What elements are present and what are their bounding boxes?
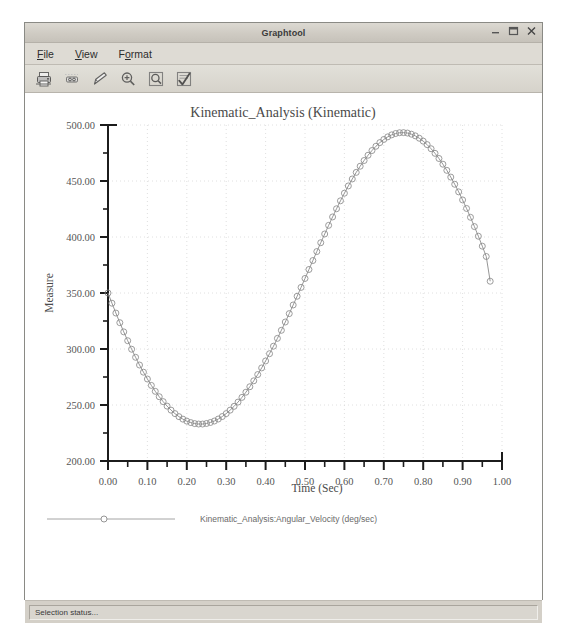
menu-item-view-rest: iew (82, 48, 98, 60)
maximize-button[interactable] (508, 25, 519, 37)
x-axis-title: Time (Sec) (291, 482, 342, 495)
y-axis-title: Measure (43, 273, 55, 313)
y-tick-label: 450.00 (66, 176, 95, 187)
chart-canvas[interactable]: Kinematic_Analysis (Kinematic) 200.00250… (25, 93, 542, 601)
menu-item-format[interactable]: Format (117, 47, 154, 61)
toolbar (25, 65, 542, 93)
close-button[interactable] (526, 25, 537, 37)
menu-item-file-rest: ile (43, 48, 54, 60)
zoom-in-icon[interactable] (118, 69, 138, 89)
edit-pencil-icon[interactable] (90, 69, 110, 89)
y-tick-label: 300.00 (66, 344, 95, 355)
x-tick-label: 0.30 (217, 476, 235, 487)
x-tick-label: 0.80 (414, 476, 432, 487)
x-tick-label: 0.10 (138, 476, 156, 487)
x-tick-label: 0.70 (375, 476, 393, 487)
legend-series-label: Kinematic_Analysis:Angular_Velocity (deg… (200, 514, 377, 524)
x-tick-label: 1.00 (493, 476, 511, 487)
graphtool-window: Graphtool (24, 22, 543, 600)
kinematic-analysis-chart: Kinematic_Analysis (Kinematic) 200.00250… (25, 93, 542, 600)
x-tick-label: 0.40 (256, 476, 274, 487)
y-tick-label: 350.00 (66, 288, 95, 299)
y-tick-label: 400.00 (66, 232, 95, 243)
x-tick-label: 0.90 (453, 476, 471, 487)
series-line-0 (108, 133, 490, 424)
chart-legend[interactable]: Kinematic_Analysis:Angular_Velocity (deg… (47, 514, 377, 524)
chart-gridlines (108, 125, 502, 461)
status-text: Selection status... (35, 608, 98, 617)
window-title: Graphtool (262, 28, 306, 38)
y-tick-label: 200.00 (66, 456, 95, 467)
print-icon[interactable] (34, 69, 54, 89)
legend-marker-sample (101, 516, 107, 522)
window-controls (490, 25, 537, 37)
zoom-window-icon[interactable] (146, 69, 166, 89)
page-setup-icon[interactable] (62, 69, 82, 89)
data-series-layer (105, 130, 493, 427)
screenshot-canvas: Graphtool (0, 0, 567, 624)
menu-bar: File View Format (25, 43, 542, 65)
x-tick-label: 0.20 (178, 476, 196, 487)
menu-item-view[interactable]: View (73, 47, 100, 61)
checklist-icon[interactable] (174, 69, 194, 89)
status-bar: Selection status... (25, 601, 542, 623)
y-tick-label: 250.00 (66, 400, 95, 411)
x-tick-label: 0.00 (99, 476, 117, 487)
menu-item-file[interactable]: File (35, 47, 56, 61)
window-title-bar[interactable]: Graphtool (25, 23, 542, 43)
y-axis-ticks: 200.00250.00300.00350.00400.00450.00500.… (66, 120, 108, 467)
series-markers-0 (105, 130, 493, 427)
status-field: Selection status... (29, 605, 538, 620)
chart-title: Kinematic_Analysis (Kinematic) (190, 105, 376, 121)
y-tick-label: 500.00 (66, 120, 95, 131)
minimize-button[interactable] (490, 25, 501, 37)
chart-plot-region: Kinematic_Analysis (Kinematic) 200.00250… (25, 93, 542, 600)
menu-item-format-rest: rmat (131, 48, 152, 60)
